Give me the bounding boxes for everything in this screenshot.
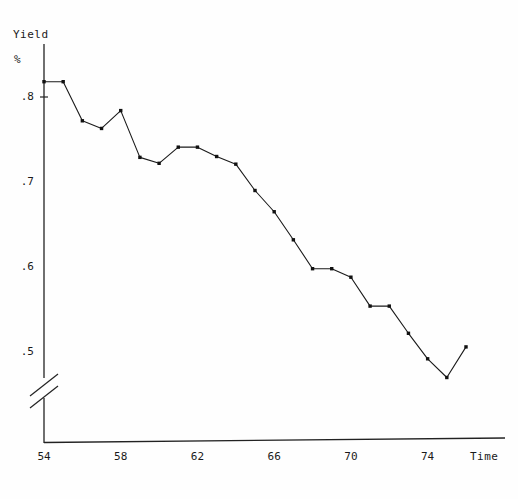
data-point-marker xyxy=(119,109,122,112)
data-point-marker xyxy=(81,119,84,122)
data-point-marker xyxy=(157,162,160,165)
data-point-marker xyxy=(407,332,410,335)
data-point-marker xyxy=(234,162,237,165)
data-point-marker xyxy=(368,304,371,307)
data-point-marker xyxy=(464,345,467,348)
data-point-marker xyxy=(253,189,256,192)
data-point-marker xyxy=(177,145,180,148)
data-point-marker xyxy=(311,267,314,270)
plot-area xyxy=(0,0,518,499)
data-point-marker xyxy=(215,155,218,158)
data-point-marker xyxy=(42,80,45,83)
data-point-marker xyxy=(388,304,391,307)
data-point-marker xyxy=(292,238,295,241)
axes-group xyxy=(30,44,505,443)
data-line-yield xyxy=(44,82,466,378)
data-point-marker xyxy=(349,276,352,279)
data-point-marker xyxy=(196,145,199,148)
chart-figure: Yield % Time .5.6.7.8 545862667074 xyxy=(0,0,518,499)
data-point-marker xyxy=(100,127,103,130)
data-point-marker xyxy=(138,156,141,159)
data-point-marker xyxy=(272,210,275,213)
data-point-marker xyxy=(330,267,333,270)
data-point-marker xyxy=(426,357,429,360)
data-point-marker xyxy=(445,376,448,379)
data-point-marker xyxy=(61,80,64,83)
x-axis-line xyxy=(44,438,505,443)
